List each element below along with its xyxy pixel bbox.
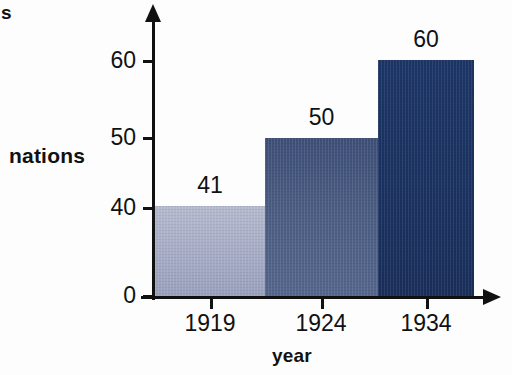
clipped-top-text: s — [1, 2, 12, 24]
bar-1934 — [378, 60, 474, 297]
x-tick-label-1919: 1919 — [165, 312, 255, 335]
y-axis-arrow-icon — [145, 4, 161, 22]
y-tick-mark-60 — [143, 60, 154, 63]
y-tick-label-60: 60 — [110, 49, 136, 72]
bar-1919 — [155, 206, 265, 297]
y-tick-label-40: 40 — [110, 196, 136, 219]
y-tick-label-50: 50 — [110, 126, 136, 149]
y-tick-label-0: 0 — [123, 284, 136, 307]
bar-chart-figure: s nations year 6050400 191919241934 4150… — [0, 0, 512, 375]
x-tick-mark-1924 — [321, 298, 324, 309]
x-tick-label-1934: 1934 — [381, 312, 471, 335]
x-axis-title: year — [272, 345, 312, 367]
bar-value-label-1934: 60 — [378, 28, 474, 51]
x-axis-line — [141, 296, 485, 299]
bar-1924 — [265, 138, 378, 297]
x-tick-mark-1919 — [210, 298, 213, 309]
x-tick-mark-1934 — [426, 298, 429, 309]
y-tick-mark-40 — [143, 207, 154, 210]
y-tick-mark-0 — [143, 295, 154, 298]
bar-value-label-1924: 50 — [265, 106, 378, 129]
y-axis-title: nations — [9, 144, 85, 168]
bar-value-label-1919: 41 — [155, 174, 265, 197]
bar-texture — [155, 206, 265, 297]
bar-texture — [378, 60, 474, 297]
x-axis-arrow-icon — [483, 289, 501, 305]
x-tick-label-1924: 1924 — [276, 312, 366, 335]
y-tick-mark-50 — [143, 137, 154, 140]
bar-texture — [265, 138, 378, 297]
